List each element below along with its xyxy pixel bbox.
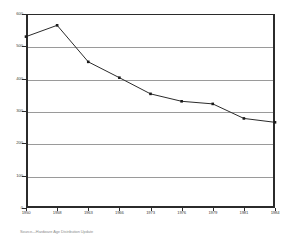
x-axis-tick-mark bbox=[244, 208, 245, 211]
x-axis-tick-mark bbox=[119, 208, 120, 211]
gridline bbox=[28, 112, 273, 113]
gridline bbox=[28, 144, 273, 145]
x-axis-tick-label: 1979 bbox=[200, 211, 226, 216]
gridline bbox=[28, 177, 273, 178]
x-axis-tick-label: 1958 bbox=[44, 211, 70, 216]
y-axis-tick-label: 500 bbox=[1, 44, 23, 48]
y-axis-tick-label: 200 bbox=[1, 141, 23, 145]
y-axis-tick-label: 600 bbox=[1, 12, 23, 16]
gridline bbox=[28, 80, 273, 81]
x-axis-tick-mark bbox=[88, 208, 89, 211]
plot-area bbox=[26, 14, 275, 208]
x-axis-tick-mark bbox=[151, 208, 152, 211]
x-axis-tick-mark bbox=[275, 208, 276, 211]
x-axis-tick-label: 1984 bbox=[262, 211, 288, 216]
y-axis-tick-label: 300 bbox=[1, 109, 23, 113]
x-axis-tick-label: 1981 bbox=[231, 211, 257, 216]
x-axis-tick-label: 1963 bbox=[75, 211, 101, 216]
x-axis-tick-mark bbox=[182, 208, 183, 211]
gridline bbox=[28, 47, 273, 48]
x-axis-tick-label: 1966 bbox=[106, 211, 132, 216]
x-axis-tick-label: 1950 bbox=[13, 211, 39, 216]
x-axis-tick-label: 1973 bbox=[138, 211, 164, 216]
y-axis-tick-label: 100 bbox=[1, 174, 23, 178]
y-axis-tick-label: 400 bbox=[1, 77, 23, 81]
x-axis-tick-label: 1976 bbox=[169, 211, 195, 216]
x-axis-tick-mark bbox=[57, 208, 58, 211]
source-note: Source—Hardware Age Distribution Update bbox=[20, 229, 93, 234]
x-axis-tick-mark bbox=[213, 208, 214, 211]
chart-figure: 0100200300400500600 19501958196319661973… bbox=[0, 0, 291, 240]
y-axis-tick-label: 0 bbox=[1, 206, 23, 210]
x-axis-tick-mark bbox=[26, 208, 27, 211]
